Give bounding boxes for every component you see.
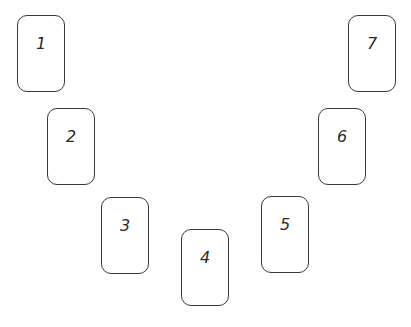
card-position-3: 3 xyxy=(101,197,149,274)
card-position-7: 7 xyxy=(348,15,396,92)
card-position-4: 4 xyxy=(181,229,229,306)
card-number: 6 xyxy=(319,127,365,147)
card-position-2: 2 xyxy=(47,108,95,185)
card-number: 1 xyxy=(18,34,64,54)
card-number: 7 xyxy=(349,34,395,54)
card-position-1: 1 xyxy=(17,15,65,92)
card-number: 5 xyxy=(262,215,308,235)
card-number: 2 xyxy=(48,127,94,147)
card-number: 4 xyxy=(182,248,228,268)
card-position-6: 6 xyxy=(318,108,366,185)
card-number: 3 xyxy=(102,216,148,236)
card-position-5: 5 xyxy=(261,196,309,273)
